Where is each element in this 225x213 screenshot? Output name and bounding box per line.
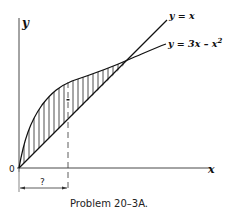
line-y-equals-x [19, 20, 167, 168]
parabola-curve [19, 44, 166, 168]
arrow-left-icon [20, 187, 25, 190]
x-axis-label: x [207, 163, 215, 176]
line-label: y = x [168, 10, 195, 21]
origin-label: 0 [9, 164, 15, 174]
dimension-label: ? [40, 177, 45, 187]
y-axis-label: y [21, 16, 30, 30]
strip-marker [67, 99, 70, 101]
arrow-right-icon [62, 187, 67, 190]
problem-figure: y x 0 y = x y = 3x – x2 ? Problem 20–3A. [0, 0, 225, 213]
shaded-region [24, 40, 123, 170]
figure-caption: Problem 20–3A. [70, 198, 148, 209]
parabola-label: y = 3x – x2 [167, 36, 222, 49]
